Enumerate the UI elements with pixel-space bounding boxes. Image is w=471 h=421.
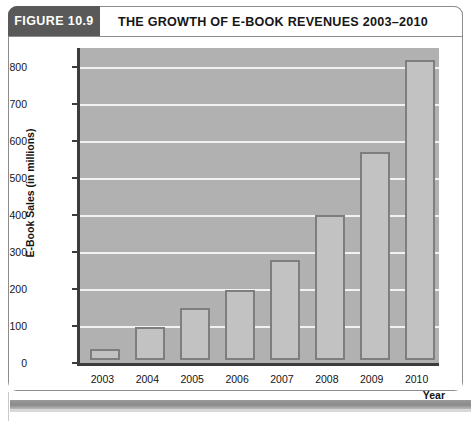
footer-bar-shadow — [10, 409, 471, 412]
figure-number-label: FIGURE 10.9 — [14, 14, 93, 28]
plot-area — [77, 48, 439, 366]
figure-header: FIGURE 10.9 THE GROWTH OF E-BOOK REVENUE… — [8, 6, 463, 36]
bar-series — [83, 48, 439, 360]
x-tick-label: 2006 — [225, 373, 248, 385]
chart-body: E-Book Sales (in millions) 0100200300400… — [9, 37, 462, 390]
y-tick-label: 400 — [0, 209, 27, 221]
footer-decorative-bar — [10, 400, 471, 409]
figure-screenshot: FIGURE 10.9 THE GROWTH OF E-BOOK REVENUE… — [0, 0, 471, 421]
bar — [90, 349, 120, 360]
bar — [225, 290, 255, 360]
figure-title-bar: THE GROWTH OF E-BOOK REVENUES 2003–2010 — [100, 6, 463, 36]
y-tick-label: 200 — [0, 283, 27, 295]
bar — [315, 215, 345, 360]
bar — [405, 60, 435, 360]
x-tick-label: 2009 — [360, 373, 383, 385]
bar — [360, 152, 390, 360]
x-tick-label: 2008 — [315, 373, 338, 385]
y-axis-title: E-Book Sales (in millions) — [24, 128, 36, 258]
y-tick-label: 500 — [0, 172, 27, 184]
y-tick-label: 0 — [0, 357, 27, 369]
x-tick-label: 2010 — [405, 373, 428, 385]
y-tick-label: 700 — [0, 98, 27, 110]
figure-title: THE GROWTH OF E-BOOK REVENUES 2003–2010 — [100, 15, 428, 29]
bar — [180, 308, 210, 360]
x-tick-label: 2004 — [136, 373, 159, 385]
y-tick-label: 100 — [0, 320, 27, 332]
page-left-spine — [8, 392, 9, 421]
x-tick-label: 2007 — [270, 373, 293, 385]
x-tick-label: 2003 — [91, 373, 114, 385]
bar — [270, 260, 300, 360]
y-tick-label: 600 — [0, 135, 27, 147]
figure-number-tab: FIGURE 10.9 — [8, 6, 100, 36]
y-tick-label: 800 — [0, 61, 27, 73]
y-tick-label: 300 — [0, 246, 27, 258]
bar — [135, 327, 165, 360]
x-tick-label: 2005 — [181, 373, 204, 385]
